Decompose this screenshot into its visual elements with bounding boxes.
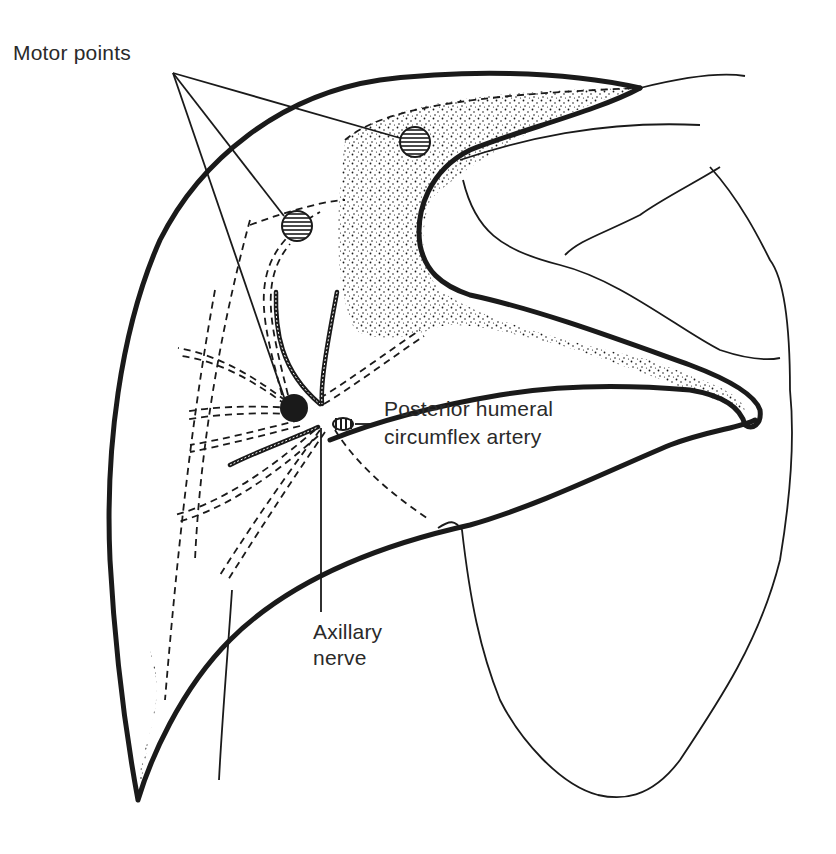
label-artery-line1: Posterior humeral — [384, 397, 553, 421]
artery-coil-icon — [333, 418, 353, 430]
label-nerve-line1: Axillary — [313, 620, 382, 644]
motor-point-upper — [400, 127, 430, 157]
motor-point-lower — [282, 211, 312, 241]
diagram-canvas: Motor points Posterior humeral circumfle… — [0, 0, 836, 854]
label-artery-line2: circumflex artery — [384, 425, 541, 449]
label-nerve-line2: nerve — [313, 646, 367, 670]
label-motor-points: Motor points — [13, 41, 131, 65]
